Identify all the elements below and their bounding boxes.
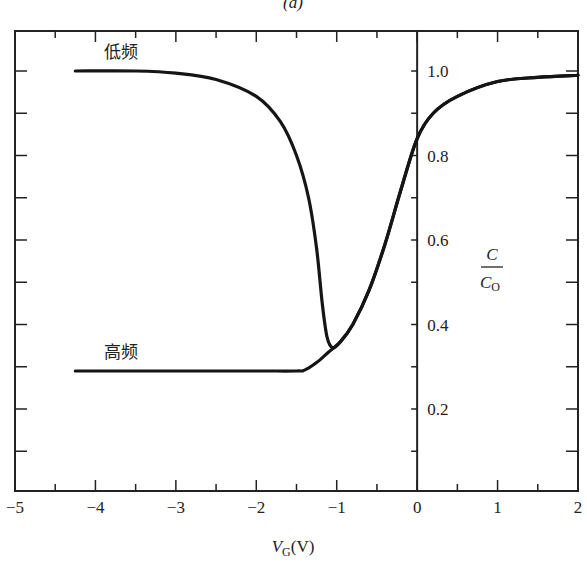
y-tick-label: 1.0 xyxy=(427,62,448,81)
x-tick-label: 2 xyxy=(574,498,583,517)
curves xyxy=(75,71,578,371)
high-frequency-label: 高频 xyxy=(104,342,138,362)
x-axis-sub: G xyxy=(282,545,291,559)
svg-text:CO: CO xyxy=(480,273,500,294)
x-tick-label: −4 xyxy=(86,498,105,517)
y-axis-numerator: C xyxy=(486,245,498,264)
y-axis-denominator: C xyxy=(480,273,492,292)
figure-caption: (a) xyxy=(283,0,303,12)
x-tick-label: −1 xyxy=(328,498,346,517)
x-tick-labels: −5−4−3−2−1012 xyxy=(6,498,582,517)
x-tick-label: 0 xyxy=(413,498,422,517)
svg-text:VG(V): VG(V) xyxy=(272,537,315,559)
x-tick-label: 1 xyxy=(493,498,502,517)
cv-chart: (a) −5−4−3−2−1012 0.20.40.60.81.0 低频高频 V… xyxy=(0,0,587,566)
y-tick-label: 0.8 xyxy=(427,147,448,166)
y-axis-denominator-sub: O xyxy=(491,280,500,294)
y-tick-label: 0.2 xyxy=(427,400,448,419)
x-tick-label: −3 xyxy=(167,498,185,517)
x-axis-unit: (V) xyxy=(291,537,315,556)
curve-annotations: 低频高频 xyxy=(104,42,138,362)
y-axis-title: C CO xyxy=(480,245,503,294)
y-tick-label: 0.6 xyxy=(427,231,448,250)
y-tick-label: 0.4 xyxy=(427,316,449,335)
low-frequency-label: 低频 xyxy=(104,42,138,62)
low-frequency-curve xyxy=(75,71,578,348)
x-tick-label: −2 xyxy=(247,498,265,517)
x-tick-label: −5 xyxy=(6,498,24,517)
x-axis-title: VG(V) xyxy=(272,537,315,559)
